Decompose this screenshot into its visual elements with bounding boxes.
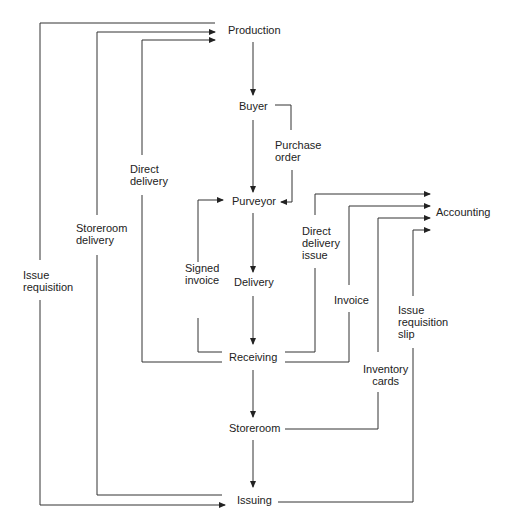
line-purchase-order-top (275, 105, 291, 130)
label-direct-delivery-issue: Direct delivery issue (302, 225, 340, 261)
label-signed-invoice: Signed invoice (185, 262, 219, 286)
node-purveyor: Purveyor (232, 195, 276, 207)
node-buyer: Buyer (239, 100, 268, 112)
node-storeroom: Storeroom (229, 422, 280, 434)
line-signed-invoice-bottom (198, 318, 222, 352)
label-issue-requisition-slip: Issue requisition slip (398, 304, 448, 340)
node-production: Production (228, 24, 281, 36)
flow-connectors (0, 0, 507, 528)
label-purchase-order: Purchase order (275, 139, 321, 163)
label-direct-delivery: Direct delivery (130, 163, 168, 187)
label-issue-requisition: Issue requisition (23, 269, 73, 293)
line-storeroom-delivery-top (97, 32, 215, 215)
label-inventory-cards: Inventory cards (363, 363, 408, 387)
node-delivery: Delivery (234, 276, 274, 288)
line-purchase-order-bottom (281, 170, 292, 202)
line-inventory-cards-bottom (285, 392, 378, 429)
line-direct-delivery-top (142, 40, 215, 155)
node-accounting: Accounting (436, 206, 490, 218)
line-direct-delivery-issue-top (315, 194, 430, 215)
node-receiving: Receiving (229, 351, 277, 363)
line-storeroom-delivery-bottom (97, 255, 222, 495)
node-issuing: Issuing (237, 494, 272, 506)
label-storeroom-delivery: Storeroom delivery (76, 222, 127, 246)
label-invoice: Invoice (334, 294, 369, 306)
line-issue-requisition-slip-top (413, 230, 430, 296)
line-issue-requisition-top (40, 23, 215, 260)
line-direct-delivery-issue-bottom (285, 268, 315, 352)
line-invoice-bottom (285, 312, 349, 362)
line-issue-requisition-bottom (40, 300, 225, 505)
